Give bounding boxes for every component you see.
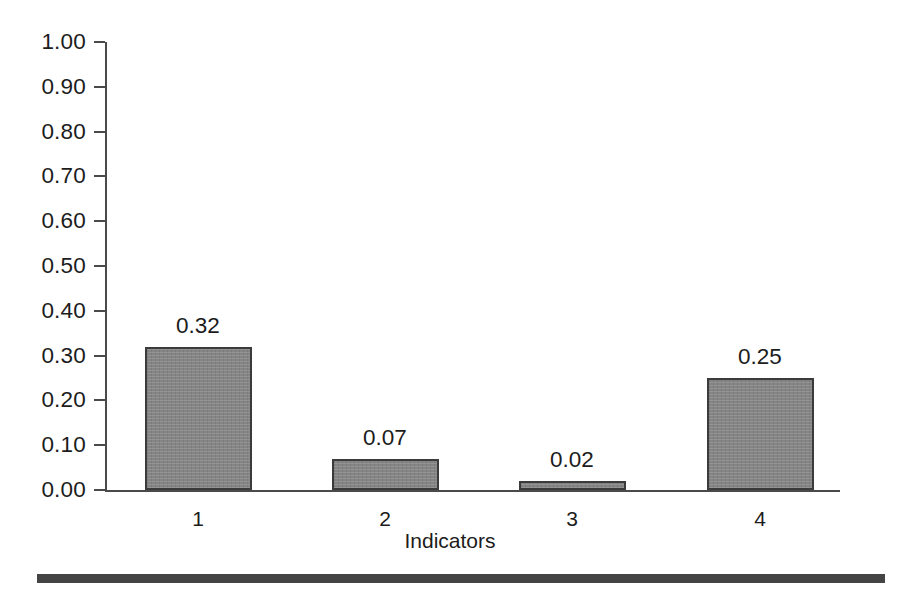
bar	[145, 347, 252, 490]
y-axis-tick-label: 0.80	[0, 121, 86, 144]
bar-chart-figure: 1.000.900.800.700.600.500.400.300.200.10…	[0, 0, 900, 605]
y-axis-tick-label: 0.50	[0, 255, 86, 278]
footer-rule	[37, 574, 885, 583]
y-axis-tick	[94, 310, 105, 312]
y-axis-tick	[94, 265, 105, 267]
x-axis-tick-label: 1	[128, 508, 268, 529]
bar-value-label: 0.02	[502, 449, 642, 472]
y-axis-tick-label: 0.60	[0, 210, 86, 233]
y-axis-tick-label: 0.20	[0, 389, 86, 412]
y-axis-tick	[94, 489, 105, 491]
y-axis-tick-label: 0.90	[0, 76, 86, 99]
bar-texture	[709, 380, 812, 488]
bar-texture	[147, 349, 250, 488]
x-axis-title: Indicators	[0, 530, 900, 551]
y-axis-tick-label: 0.00	[0, 479, 86, 502]
plot-area: 1.000.900.800.700.600.500.400.300.200.10…	[105, 42, 840, 490]
y-axis-tick-label: 1.00	[0, 31, 86, 54]
y-axis-tick	[94, 41, 105, 43]
y-axis-tick	[94, 175, 105, 177]
y-axis-tick	[94, 399, 105, 401]
y-axis-line	[105, 42, 107, 490]
y-axis-tick	[94, 444, 105, 446]
x-axis-tick-label: 2	[315, 508, 455, 529]
x-axis-tick-label: 4	[690, 508, 830, 529]
bar	[707, 378, 814, 490]
y-axis-tick	[94, 131, 105, 133]
x-axis-line	[105, 490, 840, 492]
y-axis-tick	[94, 86, 105, 88]
bar-value-label: 0.07	[315, 427, 455, 450]
bar-value-label: 0.32	[128, 315, 268, 338]
y-axis-tick	[94, 355, 105, 357]
bar	[519, 481, 626, 490]
bar-texture	[521, 483, 624, 488]
y-axis-tick	[94, 220, 105, 222]
y-axis-tick-label: 0.10	[0, 434, 86, 457]
bar	[332, 459, 439, 490]
y-axis-tick-label: 0.40	[0, 300, 86, 323]
bar-texture	[334, 461, 437, 488]
y-axis-tick-label: 0.70	[0, 165, 86, 188]
y-axis-tick-label: 0.30	[0, 345, 86, 368]
x-axis-tick-label: 3	[502, 508, 642, 529]
bar-value-label: 0.25	[690, 346, 830, 369]
